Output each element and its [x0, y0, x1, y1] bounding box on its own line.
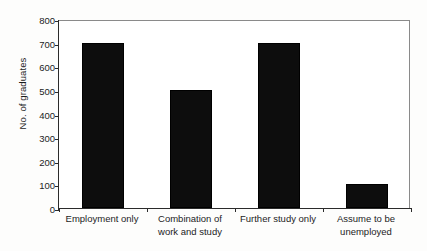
- x-tick-mark: [323, 208, 324, 212]
- plot-area: 8007006005004003002001000: [58, 20, 410, 209]
- y-tick-label: 0: [9, 205, 55, 215]
- x-axis-labels: Employment onlyCombination ofwork and st…: [58, 213, 410, 247]
- x-axis-category-label-line: Further study only: [236, 213, 320, 226]
- y-tick-label: 700: [9, 40, 55, 50]
- y-tick-label: 800: [9, 16, 55, 26]
- bar: [82, 43, 124, 208]
- x-axis-category-label: Combination ofwork and study: [148, 213, 232, 238]
- x-tick-mark: [59, 208, 60, 212]
- y-tick-mark: [55, 68, 59, 69]
- y-tick-label: 500: [9, 87, 55, 97]
- y-tick-label: 200: [9, 158, 55, 168]
- x-axis-category-label-line: work and study: [148, 226, 232, 239]
- y-tick-label: 600: [9, 64, 55, 74]
- x-tick-mark: [147, 208, 148, 212]
- y-tick-mark: [55, 139, 59, 140]
- x-axis-category-label-line: Assume to be: [324, 213, 408, 226]
- y-tick-mark: [55, 163, 59, 164]
- x-tick-mark: [411, 208, 412, 212]
- x-axis-category-label-line: unemployed: [324, 226, 408, 239]
- x-axis-category-label: Assume to beunemployed: [324, 213, 408, 238]
- y-tick-label: 100: [9, 182, 55, 192]
- x-axis-category-label-line: Combination of: [148, 213, 232, 226]
- y-tick-mark: [55, 186, 59, 187]
- y-tick-mark: [55, 116, 59, 117]
- bar: [346, 184, 388, 208]
- y-tick-mark: [55, 21, 59, 22]
- y-tick-label: 400: [9, 111, 55, 121]
- x-tick-mark: [235, 208, 236, 212]
- y-tick-mark: [55, 92, 59, 93]
- x-axis-category-label-line: Employment only: [60, 213, 144, 226]
- x-axis-category-label: Employment only: [60, 213, 144, 226]
- y-tick-label: 300: [9, 134, 55, 144]
- y-tick-mark: [55, 45, 59, 46]
- bar-chart: No. of graduates 80070060050040030020010…: [0, 0, 427, 251]
- bar: [170, 90, 212, 208]
- bar: [258, 43, 300, 208]
- x-axis-category-label: Further study only: [236, 213, 320, 226]
